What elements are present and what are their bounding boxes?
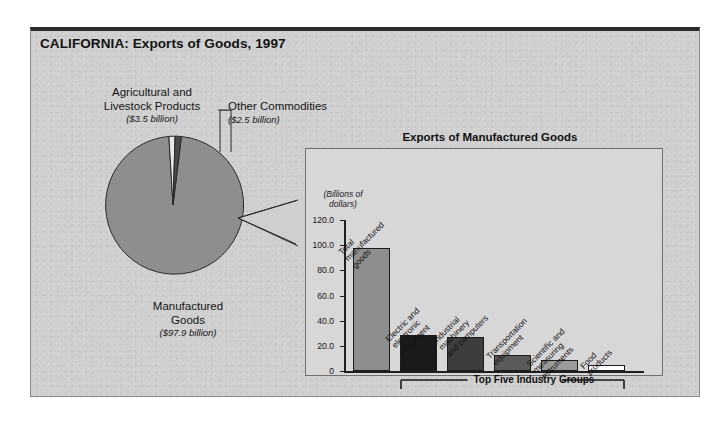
y-tick-label: 40.0 [298,316,334,326]
pie-label-manufactured-amount: ($97.9 billion) [128,327,248,338]
pie-label-manufactured: Manufactured Goods ($97.9 billion) [128,300,248,338]
figure-root: CALIFORNIA: Exports of Goods, 1997 Agric… [0,0,728,421]
page-title: CALIFORNIA: Exports of Goods, 1997 [40,36,286,51]
leader-line-other [216,110,232,154]
y-tick-mark [340,371,344,372]
x-axis-line [344,371,644,373]
y-tick-label: 120.0 [298,215,334,225]
y-tick-mark [340,296,344,297]
panel-title: Exports of Manufactured Goods [305,131,675,143]
pie-label-manufactured-line1: Manufactured [128,300,248,314]
y-tick-label: 20.0 [298,341,334,351]
pie-label-other: Other Commodities ($2.5 billion) [228,100,378,125]
y-tick-mark [340,220,344,221]
y-tick-mark [340,321,344,322]
pie-label-other-amount: ($2.5 billion) [228,114,378,125]
bracket-label: Top Five Industry Groups [474,374,595,385]
y-tick-label: 60.0 [298,291,334,301]
pie-label-agricultural-line1: Agricultural and [82,86,222,100]
pie-label-agricultural: Agricultural and Livestock Products ($3.… [82,86,222,124]
pie-label-agricultural-amount: ($3.5 billion) [82,113,222,124]
y-tick-label: 0 [298,366,334,376]
pie-label-manufactured-line2: Goods [128,314,248,328]
pie-label-agricultural-line2: Livestock Products [82,100,222,114]
bar-plot-area: 020.040.060.080.0100.0120.0Totalmanufact… [305,148,663,376]
y-tick-mark [340,270,344,271]
y-tick-label: 80.0 [298,265,334,275]
y-tick-label: 100.0 [298,240,334,250]
pie-label-other-line1: Other Commodities [228,100,378,114]
y-tick-mark [340,346,344,347]
